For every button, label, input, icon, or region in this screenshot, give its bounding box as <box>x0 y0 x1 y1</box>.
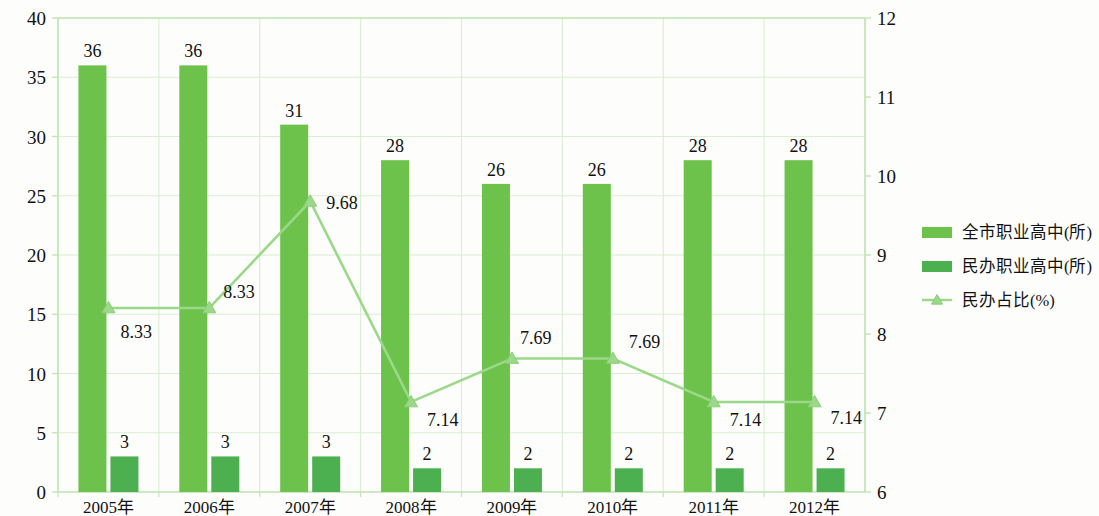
bar-total-value: 26 <box>487 160 505 180</box>
category-label: 2010年 <box>587 498 638 516</box>
bar-private-value: 3 <box>322 432 331 452</box>
bar-total-value: 36 <box>83 41 101 61</box>
category-label: 2007年 <box>285 498 336 516</box>
bar-private <box>615 468 643 492</box>
bar-total <box>684 160 712 492</box>
category-label: 2005年 <box>83 498 134 516</box>
bar-total-value: 28 <box>689 136 707 156</box>
bar-total-value: 26 <box>588 160 606 180</box>
legend-swatch-bar <box>922 261 952 272</box>
bar-private <box>716 468 744 492</box>
line-point-value: 9.68 <box>326 193 358 213</box>
bar-total-value: 28 <box>386 136 404 156</box>
legend-item-label: 民办占比(%) <box>962 291 1055 310</box>
bar-private <box>413 468 441 492</box>
combo-chart: 0510152025303540 6789101112 2005年2006年20… <box>0 0 1099 516</box>
bar-private <box>514 468 542 492</box>
bar-total-value: 31 <box>285 101 303 121</box>
bar-private <box>312 456 340 492</box>
line-point-value: 8.33 <box>223 282 255 302</box>
category-label: 2011年 <box>689 498 739 516</box>
bar-private <box>817 468 845 492</box>
chart-container: 0510152025303540 6789101112 2005年2006年20… <box>0 0 1099 516</box>
right-axis-tick-label: 6 <box>877 482 887 503</box>
left-axis-tick-label: 35 <box>27 67 46 88</box>
right-axis-tick-label: 7 <box>877 403 887 424</box>
bar-private-value: 2 <box>826 444 835 464</box>
left-axis-tick-label: 40 <box>27 8 46 29</box>
bar-total <box>482 184 510 492</box>
category-label: 2006年 <box>184 498 235 516</box>
line-point-value: 7.14 <box>831 408 863 428</box>
line-point-value: 8.33 <box>120 322 152 342</box>
legend-item-label: 全市职业高中(所) <box>962 223 1092 242</box>
left-axis-tick-label: 5 <box>37 423 47 444</box>
bar-total-value: 28 <box>790 136 808 156</box>
bar-total <box>381 160 409 492</box>
bar-private-value: 2 <box>423 444 432 464</box>
right-axis-tick-label: 9 <box>877 245 887 266</box>
bar-total <box>78 65 106 492</box>
line-point-value: 7.69 <box>629 332 661 352</box>
bar-private-value: 2 <box>523 444 532 464</box>
bar-total <box>583 184 611 492</box>
line-point-value: 7.14 <box>730 410 762 430</box>
bar-total <box>280 125 308 492</box>
bar-private <box>110 456 138 492</box>
legend-swatch-bar <box>922 227 952 238</box>
left-axis-tick-label: 10 <box>27 364 46 385</box>
left-axis-tick-label: 25 <box>27 186 46 207</box>
category-label: 2012年 <box>789 498 840 516</box>
right-axis-tick-label: 11 <box>877 87 895 108</box>
legend-item-label: 民办职业高中(所) <box>962 257 1092 276</box>
bar-total-value: 36 <box>184 41 202 61</box>
bar-total <box>179 65 207 492</box>
right-axis-tick-label: 12 <box>877 8 896 29</box>
category-label: 2008年 <box>386 498 437 516</box>
left-axis-tick-label: 15 <box>27 304 46 325</box>
category-label: 2009年 <box>486 498 537 516</box>
bar-total <box>785 160 813 492</box>
bar-private <box>211 456 239 492</box>
left-axis-tick-label: 30 <box>27 127 46 148</box>
left-axis-tick-label: 0 <box>37 482 47 503</box>
right-axis-tick-label: 10 <box>877 166 896 187</box>
bar-private-value: 2 <box>725 444 734 464</box>
right-axis-tick-label: 8 <box>877 324 887 345</box>
line-point-value: 7.69 <box>520 328 552 348</box>
bar-private-value: 3 <box>221 432 230 452</box>
bar-private-value: 3 <box>120 432 129 452</box>
left-axis-tick-label: 20 <box>27 245 46 266</box>
bar-private-value: 2 <box>624 444 633 464</box>
line-point-value: 7.14 <box>427 410 459 430</box>
